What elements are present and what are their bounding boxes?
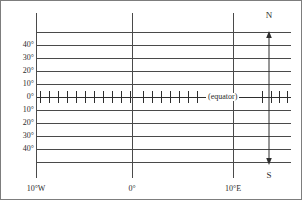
equator-tick <box>67 91 68 103</box>
lat-label-40N: 40° <box>8 41 34 49</box>
figure-border <box>0 0 302 200</box>
equator-tick <box>103 91 104 103</box>
north-label: N <box>256 11 282 20</box>
equator-tick <box>170 91 171 103</box>
parallel-equator <box>36 97 291 98</box>
parallel-30S <box>36 136 291 137</box>
lat-label-40S: 40° <box>8 145 34 153</box>
lat-label-10S: 10° <box>8 106 34 114</box>
parallel-40S <box>36 149 291 150</box>
parallel-50S <box>36 162 291 163</box>
lat-label-30N: 30° <box>8 54 34 62</box>
meridian-0 <box>132 13 133 178</box>
parallel-10S <box>36 110 291 111</box>
equator-tick <box>161 91 162 103</box>
lon-label-10E: 10°E <box>213 185 253 193</box>
parallel-40N <box>36 45 291 46</box>
parallel-30N <box>36 58 291 59</box>
lat-label-20S: 20° <box>8 119 34 127</box>
lon-label-0: 0° <box>112 185 152 193</box>
equator-tick <box>279 91 280 103</box>
parallel-20S <box>36 123 291 124</box>
equator-tick <box>287 91 288 103</box>
equator-tick <box>152 91 153 103</box>
equator-tick <box>179 91 180 103</box>
equator-caption: (equator) <box>206 93 239 101</box>
equator-tick <box>121 91 122 103</box>
meridian-10W <box>36 13 37 178</box>
equator-tick <box>76 91 77 103</box>
north-south-arrow-icon <box>261 28 277 168</box>
parallel-10N <box>36 84 291 85</box>
equator-tick <box>112 91 113 103</box>
lat-label-30S: 30° <box>8 132 34 140</box>
parallel-50N <box>36 32 291 33</box>
latitude-longitude-diagram: (equator) 40° 30° 20° 10° 0° 10° 20° 30°… <box>0 0 303 201</box>
equator-tick <box>130 91 131 103</box>
lat-label-10N: 10° <box>8 80 34 88</box>
equator-tick <box>197 91 198 103</box>
equator-tick <box>58 91 59 103</box>
equator-tick <box>94 91 95 103</box>
equator-tick <box>85 91 86 103</box>
equator-tick <box>49 91 50 103</box>
equator-tick <box>40 91 41 103</box>
parallel-20N <box>36 71 291 72</box>
equator-tick <box>143 91 144 103</box>
south-label: S <box>256 171 282 180</box>
lat-label-20N: 20° <box>8 67 34 75</box>
lon-label-10W: 10°W <box>16 185 56 193</box>
lat-label-equator: 0° <box>8 93 34 101</box>
equator-tick <box>188 91 189 103</box>
